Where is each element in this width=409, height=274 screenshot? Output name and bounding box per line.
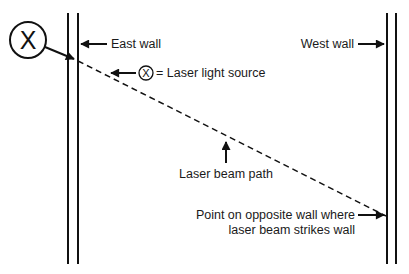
- laser-beam-path: [78, 61, 386, 216]
- legend-circled-x-icon: X: [139, 66, 153, 80]
- source-pointer-arrow-icon: [45, 47, 74, 59]
- circled-x-icon: X: [10, 22, 46, 58]
- laser-wall-diagram: X East wall West wall X = Laser light so…: [0, 0, 409, 274]
- west-wall-label: West wall: [301, 37, 354, 51]
- east-wall: [68, 13, 78, 264]
- east-wall-label: East wall: [111, 37, 161, 51]
- legend-label: = Laser light source: [156, 66, 265, 80]
- beam-path-label: Laser beam path: [179, 167, 273, 181]
- legend-glyph: X: [142, 67, 150, 79]
- laser-source-glyph: X: [20, 26, 37, 54]
- west-wall: [387, 13, 396, 264]
- strike-point-label-line1: Point on opposite wall where: [196, 208, 355, 222]
- strike-point-label-line2: laser beam strikes wall: [229, 223, 355, 237]
